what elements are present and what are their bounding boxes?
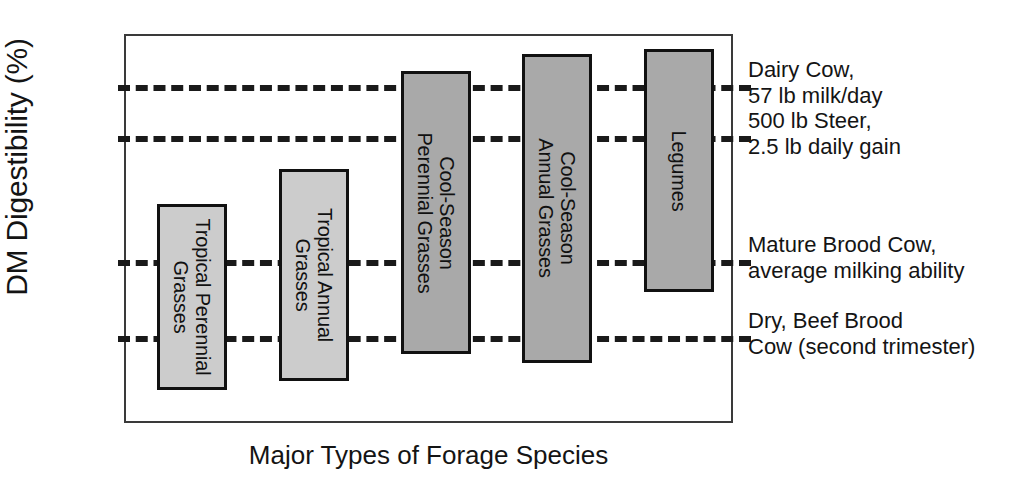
reference-line-label: 500 lb Steer, 2.5 lb daily gain [748,108,901,160]
range-bar: Tropical PerennialGrasses [157,204,227,390]
y-axis-title: DM Digestibility (%) [0,7,34,327]
reference-line-label: Mature Brood Cow, average milking abilit… [748,232,964,284]
range-bar: Legumes [644,49,714,292]
bar-label: Cool-SeasonPerennial Grasses [414,132,458,293]
range-bar: Cool-SeasonAnnual Grasses [522,54,592,363]
plot-area: 4050607080 Tropical PerennialGrassesTrop… [124,34,733,423]
range-bar: Tropical AnnualGrasses [279,169,349,381]
bar-label: Cool-SeasonAnnual Grasses [535,139,579,279]
x-axis-title: Major Types of Forage Species [124,440,733,471]
range-bar: Cool-SeasonPerennial Grasses [401,71,471,354]
bar-label: Legumes [668,130,690,211]
bar-label: Tropical AnnualGrasses [292,208,336,342]
bar-label: Tropical PerennialGrasses [170,218,214,375]
reference-line-label: Dry, Beef Brood Cow (second trimester) [748,308,975,360]
reference-line-label: Dairy Cow, 57 lb milk/day [748,57,883,109]
forage-digestibility-chart: DM Digestibility (%) 4050607080 Tropical… [0,0,1009,488]
